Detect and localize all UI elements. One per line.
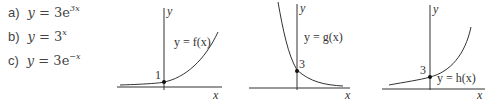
curve-g bbox=[278, 2, 343, 86]
y-axis-label: y bbox=[432, 2, 439, 16]
y-axis-label: y bbox=[166, 4, 173, 18]
x-axis-label: x bbox=[212, 88, 219, 102]
curve-label: y = h(x) bbox=[437, 71, 476, 85]
y-axis-label: y bbox=[299, 1, 306, 15]
graph-f: y x y = f(x) 1 bbox=[117, 4, 222, 102]
intercept-label: 3 bbox=[420, 63, 426, 77]
graph-h: y x y = h(x) 3 bbox=[382, 2, 485, 102]
curve-label: y = g(x) bbox=[304, 30, 343, 44]
intercept-point bbox=[428, 75, 432, 79]
curve-label: y = f(x) bbox=[174, 35, 211, 49]
intercept-point bbox=[162, 80, 166, 84]
graphs-canvas: y x y = f(x) 1 y x y = g(x) 3 y x y = h(… bbox=[0, 0, 488, 105]
x-axis-label: x bbox=[476, 88, 483, 102]
intercept-label: 1 bbox=[155, 68, 161, 82]
x-axis-label: x bbox=[344, 88, 351, 102]
intercept-label: 3 bbox=[299, 57, 305, 71]
graph-g: y x y = g(x) 3 bbox=[249, 1, 351, 102]
